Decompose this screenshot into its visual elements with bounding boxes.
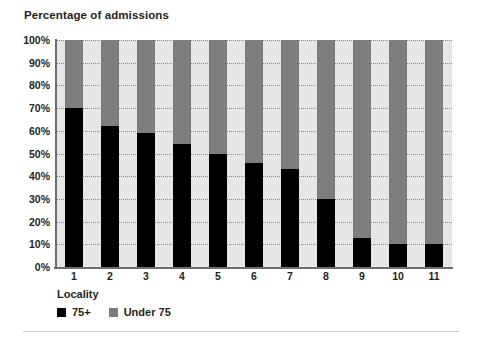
x-axis-tick-label: 9 bbox=[344, 270, 380, 286]
plot-area bbox=[56, 40, 452, 267]
bar-segment-under-75[interactable] bbox=[317, 40, 335, 199]
legend-title: Locality bbox=[57, 288, 99, 300]
bar-stack[interactable] bbox=[173, 40, 191, 267]
y-axis-tick-label: 80% bbox=[0, 79, 50, 91]
legend: 75+Under 75 bbox=[57, 306, 189, 318]
bar-segment-75-plus[interactable] bbox=[209, 154, 227, 268]
bar-segment-under-75[interactable] bbox=[137, 40, 155, 133]
legend-swatch-icon bbox=[57, 308, 66, 317]
y-axis-tick-label: 30% bbox=[0, 193, 50, 205]
bar-stack[interactable] bbox=[389, 40, 407, 267]
bar-slot bbox=[308, 40, 344, 267]
x-axis-tick-label: 1 bbox=[56, 270, 92, 286]
bar-slot bbox=[380, 40, 416, 267]
bar-stack[interactable] bbox=[101, 40, 119, 267]
x-axis-line bbox=[54, 267, 453, 269]
stacked-bar-chart: Percentage of admissions 100%90%80%70%60… bbox=[0, 0, 482, 338]
y-axis-tick-label: 100% bbox=[0, 34, 50, 46]
bar-segment-75-plus[interactable] bbox=[65, 108, 83, 267]
bar-stack[interactable] bbox=[137, 40, 155, 267]
y-axis-tick-label: 0% bbox=[0, 261, 50, 273]
bars-layer bbox=[56, 40, 452, 267]
y-axis-line bbox=[55, 39, 57, 268]
x-axis-tick-label: 2 bbox=[92, 270, 128, 286]
x-axis-tick-label: 11 bbox=[416, 270, 452, 286]
x-axis-tick-label: 8 bbox=[308, 270, 344, 286]
bar-segment-75-plus[interactable] bbox=[137, 133, 155, 267]
bar-slot bbox=[272, 40, 308, 267]
bar-slot bbox=[164, 40, 200, 267]
y-axis-tick-label: 70% bbox=[0, 102, 50, 114]
y-axis-tick-label: 60% bbox=[0, 125, 50, 137]
bar-stack[interactable] bbox=[65, 40, 83, 267]
bar-segment-under-75[interactable] bbox=[425, 40, 443, 244]
y-axis-tick-label: 50% bbox=[0, 148, 50, 160]
bar-stack[interactable] bbox=[281, 40, 299, 267]
bar-segment-under-75[interactable] bbox=[101, 40, 119, 126]
x-axis-tick-label: 6 bbox=[236, 270, 272, 286]
bar-slot bbox=[416, 40, 452, 267]
bar-stack[interactable] bbox=[245, 40, 263, 267]
x-axis-tick-label: 3 bbox=[128, 270, 164, 286]
bar-segment-under-75[interactable] bbox=[245, 40, 263, 163]
bar-segment-75-plus[interactable] bbox=[245, 163, 263, 267]
bar-segment-under-75[interactable] bbox=[389, 40, 407, 244]
x-axis-tick-label: 5 bbox=[200, 270, 236, 286]
bar-slot bbox=[200, 40, 236, 267]
bar-segment-75-plus[interactable] bbox=[389, 244, 407, 267]
y-axis-tick-label: 20% bbox=[0, 216, 50, 228]
legend-swatch-icon bbox=[109, 308, 118, 317]
y-axis-tick-label: 10% bbox=[0, 238, 50, 250]
bar-segment-under-75[interactable] bbox=[353, 40, 371, 237]
bar-stack[interactable] bbox=[317, 40, 335, 267]
x-axis-tick-label: 7 bbox=[272, 270, 308, 286]
x-axis-tick-labels: 1234567891011 bbox=[56, 270, 452, 286]
legend-label: Under 75 bbox=[124, 306, 171, 318]
bar-slot bbox=[56, 40, 92, 267]
bar-slot bbox=[344, 40, 380, 267]
bar-segment-75-plus[interactable] bbox=[101, 126, 119, 267]
bar-slot bbox=[128, 40, 164, 267]
bar-segment-75-plus[interactable] bbox=[353, 238, 371, 268]
bar-segment-under-75[interactable] bbox=[281, 40, 299, 169]
bar-segment-75-plus[interactable] bbox=[281, 169, 299, 267]
bar-stack[interactable] bbox=[353, 40, 371, 267]
legend-entry[interactable]: 75+ bbox=[57, 306, 91, 318]
y-axis-tick-label: 90% bbox=[0, 57, 50, 69]
bar-slot bbox=[92, 40, 128, 267]
bar-segment-under-75[interactable] bbox=[173, 40, 191, 144]
x-axis-tick-label: 10 bbox=[380, 270, 416, 286]
bar-segment-under-75[interactable] bbox=[209, 40, 227, 154]
legend-label: 75+ bbox=[72, 306, 91, 318]
bottom-divider bbox=[23, 331, 459, 332]
bar-segment-75-plus[interactable] bbox=[425, 244, 443, 267]
legend-entry[interactable]: Under 75 bbox=[109, 306, 171, 318]
bar-stack[interactable] bbox=[209, 40, 227, 267]
bar-slot bbox=[236, 40, 272, 267]
bar-stack[interactable] bbox=[425, 40, 443, 267]
y-axis-tick-labels: 100%90%80%70%60%50%40%30%20%10%0% bbox=[0, 0, 50, 338]
x-axis-tick-label: 4 bbox=[164, 270, 200, 286]
bar-segment-75-plus[interactable] bbox=[173, 144, 191, 267]
bar-segment-75-plus[interactable] bbox=[317, 199, 335, 267]
bar-segment-under-75[interactable] bbox=[65, 40, 83, 108]
y-axis-tick-label: 40% bbox=[0, 170, 50, 182]
